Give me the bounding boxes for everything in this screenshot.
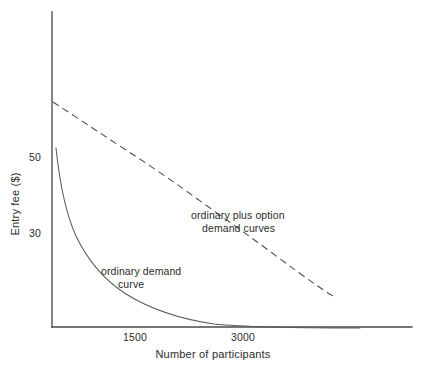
annotation-option-curve: ordinary plus optiondemand curves	[191, 209, 285, 234]
ordinary-demand-curve	[56, 148, 360, 328]
y-tick-label-50: 50	[29, 151, 41, 163]
x-tick-label-3000: 3000	[231, 331, 255, 343]
annotation-ordinary-curve-line1: ordinary demand	[101, 265, 181, 277]
chart-plot-area	[0, 0, 426, 378]
demand-curve-chart: 50 30 1500 3000 Number of participants E…	[0, 0, 426, 378]
annotation-ordinary-curve-line2: curve	[101, 278, 181, 291]
annotation-option-curve-line2: demand curves	[191, 222, 285, 235]
x-axis-title: Number of participants	[0, 348, 426, 360]
ordinary-plus-option-demand-curve	[53, 102, 335, 297]
annotation-option-curve-line1: ordinary plus option	[191, 209, 285, 221]
y-axis-title: Entry fee ($)	[9, 144, 21, 264]
annotation-ordinary-curve: ordinary demandcurve	[101, 265, 181, 290]
y-tick-label-30: 30	[29, 227, 41, 239]
x-tick-label-1500: 1500	[123, 331, 147, 343]
